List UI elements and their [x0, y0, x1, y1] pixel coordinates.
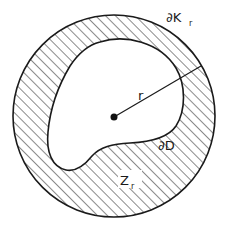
- center-point: [111, 114, 118, 121]
- label-boundary-D: ∂D: [158, 138, 175, 153]
- label-boundary-K-sub: r: [189, 19, 193, 28]
- label-region-Z-main: Z: [120, 173, 129, 188]
- label-radius: r: [138, 88, 144, 103]
- label-boundary-K-main: ∂K: [166, 10, 182, 25]
- label-boundary-K: ∂K r: [166, 10, 193, 28]
- domain-diagram: ∂K r r ∂D Z r: [0, 0, 228, 231]
- label-region-Z: Z r: [118, 170, 142, 191]
